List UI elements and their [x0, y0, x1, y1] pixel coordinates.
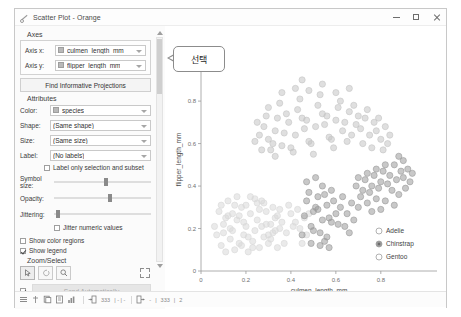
- jittering-slider[interactable]: [54, 209, 151, 219]
- data-point[interactable]: [281, 240, 287, 246]
- data-point[interactable]: [252, 228, 258, 234]
- data-point[interactable]: [236, 213, 242, 219]
- data-point[interactable]: [259, 147, 265, 153]
- data-point[interactable]: [393, 177, 399, 183]
- data-point[interactable]: [407, 179, 413, 185]
- data-point[interactable]: [322, 191, 328, 197]
- data-point[interactable]: [346, 109, 352, 115]
- data-point[interactable]: [299, 77, 305, 83]
- data-point[interactable]: [272, 228, 278, 234]
- data-point[interactable]: [306, 87, 312, 93]
- slider-handle[interactable]: [104, 178, 108, 186]
- data-point[interactable]: [263, 208, 269, 214]
- data-point[interactable]: [355, 204, 361, 210]
- legend-item-chinstrap[interactable]: Chinstrap: [376, 240, 414, 248]
- data-point[interactable]: [322, 238, 328, 244]
- zoom-magnifier-button[interactable]: [56, 266, 71, 280]
- slider-handle[interactable]: [108, 194, 112, 202]
- data-point[interactable]: [256, 132, 262, 138]
- data-point[interactable]: [382, 162, 388, 168]
- data-point[interactable]: [220, 221, 226, 227]
- data-point[interactable]: [315, 206, 321, 212]
- data-point[interactable]: [319, 81, 325, 87]
- data-point[interactable]: [373, 166, 379, 172]
- data-point[interactable]: [218, 202, 224, 208]
- jitter-numeric-checkbox[interactable]: Jitter numeric values: [54, 224, 151, 231]
- legend-item-gentoo[interactable]: Gentoo: [376, 253, 408, 260]
- data-point[interactable]: [371, 172, 377, 178]
- data-point[interactable]: [254, 119, 260, 125]
- data-point[interactable]: [272, 153, 278, 159]
- data-point[interactable]: [333, 117, 339, 123]
- data-point[interactable]: [308, 240, 314, 246]
- data-point[interactable]: [283, 111, 289, 117]
- data-point[interactable]: [335, 104, 341, 110]
- data-point[interactable]: [232, 202, 238, 208]
- data-point[interactable]: [256, 206, 262, 212]
- data-point[interactable]: [391, 162, 397, 168]
- maximize-button[interactable]: [406, 9, 426, 25]
- data-point[interactable]: [346, 230, 352, 236]
- pan-button[interactable]: [38, 266, 53, 280]
- data-point[interactable]: [299, 232, 305, 238]
- data-point[interactable]: [310, 151, 316, 157]
- data-point[interactable]: [279, 143, 285, 149]
- data-point[interactable]: [351, 102, 357, 108]
- data-point[interactable]: [396, 191, 402, 197]
- data-point[interactable]: [355, 175, 361, 181]
- data-point[interactable]: [272, 128, 278, 134]
- data-point[interactable]: [382, 198, 388, 204]
- data-point[interactable]: [317, 92, 323, 98]
- data-point[interactable]: [376, 185, 382, 191]
- data-point[interactable]: [243, 202, 249, 208]
- data-point[interactable]: [274, 245, 280, 251]
- data-point[interactable]: [349, 200, 355, 206]
- data-point[interactable]: [218, 242, 224, 248]
- data-point[interactable]: [400, 175, 406, 181]
- opacity-slider[interactable]: [54, 193, 151, 203]
- data-point[interactable]: [373, 128, 379, 134]
- data-point[interactable]: [378, 136, 384, 142]
- data-point[interactable]: [227, 236, 233, 242]
- data-point[interactable]: [387, 132, 393, 138]
- data-point[interactable]: [369, 208, 375, 214]
- find-informative-projections-button[interactable]: Find Informative Projections: [20, 78, 151, 92]
- data-point[interactable]: [295, 206, 301, 212]
- data-point[interactable]: [286, 119, 292, 125]
- data-point[interactable]: [229, 211, 235, 217]
- data-point[interactable]: [315, 102, 321, 108]
- data-point[interactable]: [324, 113, 330, 119]
- data-point[interactable]: [310, 228, 316, 234]
- data-point[interactable]: [385, 141, 391, 147]
- show-legend-checkbox[interactable]: Show legend: [20, 247, 151, 254]
- data-point[interactable]: [358, 126, 364, 132]
- data-point[interactable]: [369, 183, 375, 189]
- data-point[interactable]: [380, 168, 386, 174]
- data-point[interactable]: [252, 138, 258, 144]
- data-point[interactable]: [319, 183, 325, 189]
- data-point[interactable]: [247, 194, 253, 200]
- data-point[interactable]: [301, 126, 307, 132]
- chart-icon[interactable]: [67, 295, 76, 304]
- data-point[interactable]: [391, 202, 397, 208]
- data-point[interactable]: [313, 124, 319, 130]
- data-point[interactable]: [292, 219, 298, 225]
- data-point[interactable]: [367, 132, 373, 138]
- copy-icon[interactable]: [43, 295, 52, 304]
- data-point[interactable]: [331, 198, 337, 204]
- scroll-up-icon[interactable]: [157, 31, 163, 35]
- data-point[interactable]: [409, 170, 415, 176]
- data-point[interactable]: [360, 187, 366, 193]
- data-point[interactable]: [304, 198, 310, 204]
- data-point[interactable]: [238, 242, 244, 248]
- data-point[interactable]: [250, 245, 256, 251]
- data-point[interactable]: [333, 90, 339, 96]
- data-point[interactable]: [364, 107, 370, 113]
- data-point[interactable]: [297, 96, 303, 102]
- data-point[interactable]: [301, 213, 307, 219]
- data-point[interactable]: [223, 249, 229, 255]
- data-point[interactable]: [328, 136, 334, 142]
- data-point[interactable]: [349, 132, 355, 138]
- data-point[interactable]: [214, 232, 220, 238]
- data-point[interactable]: [299, 240, 305, 246]
